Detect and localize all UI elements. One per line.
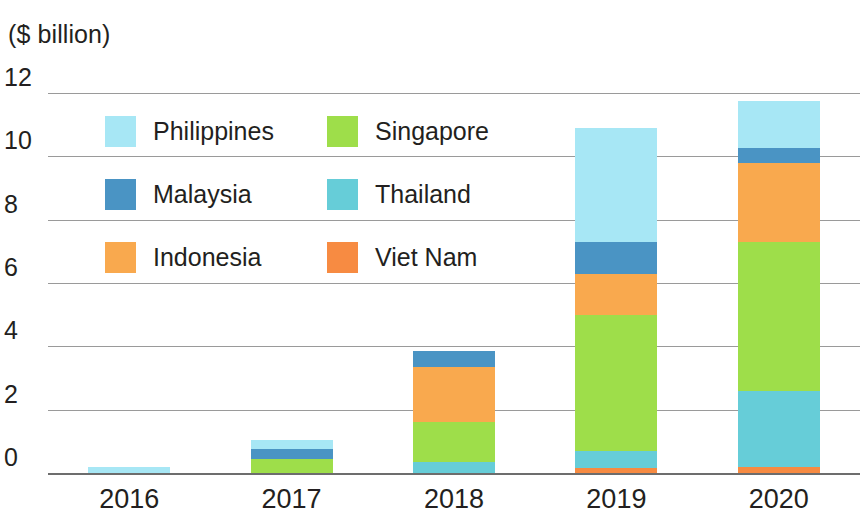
bar-segment-2020-malaysia[interactable] <box>738 148 820 162</box>
stacked-bar-2018[interactable] <box>413 351 495 473</box>
bar-segment-2016-philippines[interactable] <box>88 467 170 473</box>
y-axis-unit-label: ($ billion) <box>8 20 111 49</box>
legend-item-indonesia[interactable]: Indonesia <box>105 242 327 273</box>
bar-segment-2018-indonesia[interactable] <box>413 367 495 422</box>
x-tick-label-2016: 2016 <box>59 484 199 515</box>
legend-swatch-icon-singapore <box>327 116 358 147</box>
bar-segment-2019-singapore[interactable] <box>575 315 657 451</box>
axis-line-zero <box>48 473 860 475</box>
legend-label: Philippines <box>153 119 274 144</box>
bar-segment-2018-singapore[interactable] <box>413 422 495 462</box>
y-tick-label-12: 12 <box>4 65 44 90</box>
legend-label: Viet Nam <box>375 245 477 270</box>
legend-label: Indonesia <box>153 245 261 270</box>
legend-swatch-icon-viet-nam <box>327 242 358 273</box>
x-axis: 20162017201820192020 <box>48 478 860 517</box>
bar-segment-2020-indonesia[interactable] <box>738 163 820 242</box>
x-tick-label-2017: 2017 <box>222 484 362 515</box>
chart-legend: PhilippinesSingaporeMalaysiaThailandIndo… <box>105 100 525 289</box>
stacked-bar-2017[interactable] <box>251 440 333 473</box>
stacked-bar-2020[interactable] <box>738 101 820 473</box>
bar-segment-2019-philippines[interactable] <box>575 128 657 242</box>
x-tick-label-2020: 2020 <box>709 484 849 515</box>
y-tick-label-2: 2 <box>4 382 44 407</box>
stacked-bar-2019[interactable] <box>575 128 657 473</box>
bar-segment-2019-thailand[interactable] <box>575 451 657 468</box>
legend-swatch-icon-malaysia <box>105 179 136 210</box>
bar-segment-2017-singapore[interactable] <box>251 459 333 473</box>
legend-item-viet-nam[interactable]: Viet Nam <box>327 242 527 273</box>
bar-group-2019[interactable] <box>575 93 657 473</box>
bar-segment-2017-malaysia[interactable] <box>251 449 333 459</box>
y-axis: 024681012 <box>0 93 44 473</box>
y-tick-label-8: 8 <box>4 192 44 217</box>
legend-label: Thailand <box>375 182 471 207</box>
bar-segment-2020-singapore[interactable] <box>738 242 820 391</box>
legend-label: Malaysia <box>153 182 252 207</box>
legend-swatch-icon-thailand <box>327 179 358 210</box>
x-tick-label-2019: 2019 <box>546 484 686 515</box>
y-tick-label-4: 4 <box>4 318 44 343</box>
bar-segment-2018-thailand[interactable] <box>413 462 495 473</box>
legend-swatch-icon-philippines <box>105 116 136 147</box>
stacked-bar-2016[interactable] <box>88 467 170 473</box>
legend-item-philippines[interactable]: Philippines <box>105 116 327 147</box>
legend-item-malaysia[interactable]: Malaysia <box>105 179 327 210</box>
bar-segment-2019-indonesia[interactable] <box>575 274 657 315</box>
bar-segment-2018-malaysia[interactable] <box>413 351 495 367</box>
bar-segment-2019-viet-nam[interactable] <box>575 468 657 473</box>
bar-segment-2020-viet-nam[interactable] <box>738 467 820 473</box>
x-tick-label-2018: 2018 <box>384 484 524 515</box>
legend-item-singapore[interactable]: Singapore <box>327 116 527 147</box>
legend-item-thailand[interactable]: Thailand <box>327 179 527 210</box>
y-tick-label-10: 10 <box>4 128 44 153</box>
bar-segment-2020-philippines[interactable] <box>738 101 820 149</box>
legend-label: Singapore <box>375 119 489 144</box>
bar-segment-2017-philippines[interactable] <box>251 440 333 449</box>
legend-swatch-icon-indonesia <box>105 242 136 273</box>
bar-segment-2020-thailand[interactable] <box>738 391 820 467</box>
y-tick-label-6: 6 <box>4 255 44 280</box>
bar-group-2020[interactable] <box>738 93 820 473</box>
y-tick-label-0: 0 <box>4 445 44 470</box>
bar-segment-2019-malaysia[interactable] <box>575 242 657 274</box>
chart-container: ($ billion) 024681012 201620172018201920… <box>0 0 868 517</box>
